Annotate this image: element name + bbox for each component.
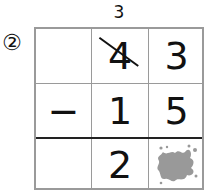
cell-r1-c3: 3 — [149, 29, 204, 83]
borrow-mark: 3 — [112, 3, 126, 21]
answer-ones-hidden — [149, 139, 204, 190]
ink-blot-icon — [155, 144, 199, 186]
cell-r2-c2: 1 — [92, 84, 148, 137]
minus-sign: − — [36, 84, 91, 137]
problem-number: ② — [2, 32, 22, 54]
cell-r3-c1 — [36, 139, 91, 190]
answer-tens: 2 — [92, 139, 148, 190]
cell-r1-c1 — [36, 29, 91, 83]
cell-r2-c3: 5 — [149, 84, 204, 137]
